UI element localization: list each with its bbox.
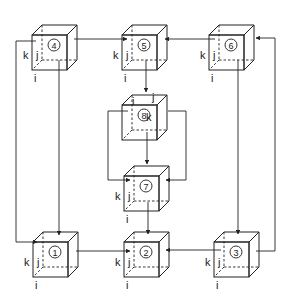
axis-label-i: i: [124, 72, 126, 84]
axis-label-i: i: [216, 279, 218, 291]
axis-label-k: k: [23, 49, 29, 61]
axis-label-k: k: [115, 256, 121, 268]
node-number: 7: [143, 182, 148, 192]
axis-label-k: k: [113, 49, 119, 61]
axis-label-k: k: [115, 190, 121, 202]
axis-label-k: k: [146, 111, 152, 123]
cube-node-4: 4kji: [23, 25, 77, 84]
axis-label-j: j: [127, 256, 130, 268]
axis-label-j: j: [127, 190, 130, 202]
axis-label-i: i: [35, 279, 37, 291]
axis-label-j: j: [36, 256, 39, 268]
axis-label-i: i: [34, 72, 36, 84]
axis-label-j: j: [125, 49, 128, 61]
axis-label-j: j: [151, 91, 154, 103]
cube-node-3: 3kji: [205, 232, 259, 291]
cube-node-1: 1kji: [24, 232, 78, 291]
axis-label-i: i: [211, 72, 213, 84]
node-number: 5: [141, 41, 146, 51]
node-number: 3: [233, 248, 238, 258]
cube-node-5: 5kji: [113, 25, 167, 84]
cube-network-diagram: 1kji2kji3kji4kji5kji6kji7kji8ijk: [0, 0, 290, 300]
axis-label-i: i: [126, 213, 128, 225]
axis-label-j: j: [217, 256, 220, 268]
node-number: 2: [143, 248, 148, 258]
cube-node-6: 6kji: [200, 25, 254, 84]
node-number: 6: [228, 41, 233, 51]
node-number: 1: [52, 248, 57, 258]
axis-label-j: j: [35, 49, 38, 61]
node-number: 4: [51, 41, 56, 51]
axis-label-k: k: [200, 49, 206, 61]
cube-node-2: 2kji: [115, 232, 169, 291]
axis-label-i: i: [126, 279, 128, 291]
axis-label-i: i: [132, 95, 134, 107]
cube-node-8: 8ijk: [122, 91, 167, 140]
cube-node-7: 7kji: [115, 166, 169, 225]
axis-label-j: j: [212, 49, 215, 61]
axis-label-k: k: [24, 256, 30, 268]
axis-label-k: k: [205, 256, 211, 268]
